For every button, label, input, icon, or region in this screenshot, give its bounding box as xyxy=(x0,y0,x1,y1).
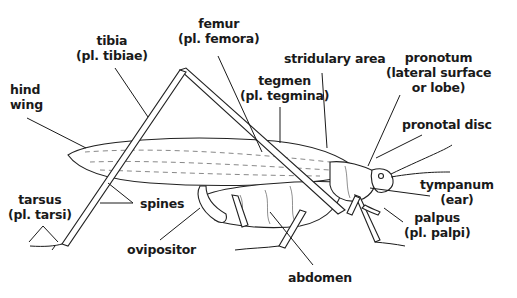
label-stridulary-area: stridulary area xyxy=(284,51,386,66)
label-abdomen: abdomen xyxy=(288,270,352,285)
insect-anatomy-diagram: femur (pl. femora) tibia (pl. tibiae) hi… xyxy=(0,0,517,298)
label-hind-wing: hind wing xyxy=(10,82,43,112)
leader-tibia xyxy=(115,68,148,117)
label-tegmen: tegmen (pl. tegmina) xyxy=(240,73,329,103)
label-palpus: palpus (pl. palpi) xyxy=(404,210,470,240)
leader-pronotum xyxy=(368,95,400,166)
hind-tarsus xyxy=(30,244,62,250)
label-pronotal-disc: pronotal disc xyxy=(402,117,492,132)
leader-palpus xyxy=(384,208,403,222)
leader-hind-wing xyxy=(27,118,86,148)
label-tympanum: tympanum (ear) xyxy=(420,177,494,207)
pronotum-shape xyxy=(330,162,376,201)
label-femur: femur (pl. femora) xyxy=(178,16,260,46)
leader-pronotal-disc xyxy=(376,135,422,158)
label-tibia: tibia (pl. tibiae) xyxy=(76,33,148,63)
leader-tarsus xyxy=(29,226,58,242)
leader-ovipositor xyxy=(160,208,200,240)
label-ovipositor: ovipositor xyxy=(127,242,196,257)
label-spines: spines xyxy=(140,196,184,211)
label-tarsus: tarsus (pl. tarsi) xyxy=(8,192,72,222)
label-pronotum: pronotum (lateral surface or lobe) xyxy=(386,50,491,95)
